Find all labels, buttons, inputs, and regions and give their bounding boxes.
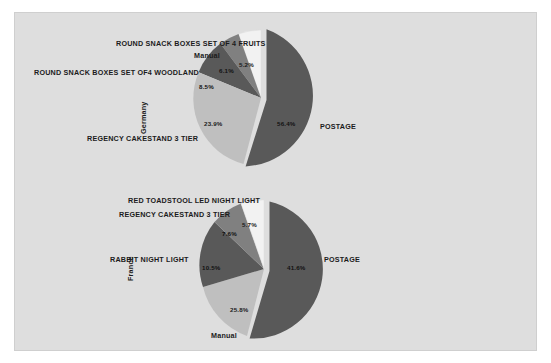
label-red-toadstool: RED TOADSTOOL LED NIGHT LIGHT [128,197,260,204]
pie-germany-svg [191,27,335,173]
pct-manual-bottom: 25.8% [230,307,249,313]
pct-regency-bottom: 7.6% [222,231,237,237]
label-postage-bottom: POSTAGE [324,256,360,263]
label-postage-top: POSTAGE [320,123,356,130]
pct-manual-top: 5.2% [239,62,254,68]
pie-chart-germany: ROUND SNACK BOXES SET OF 4 FRUITS Manual… [15,13,538,185]
pct-woodland-top: 8.5% [199,84,214,90]
label-manual-bottom: Manual [211,332,237,339]
label-regency-cakestand-top: REGENCY CAKESTAND 3 TIER [87,135,198,142]
pct-postage-bottom: 41.6% [287,265,306,271]
figure-canvas: ROUND SNACK BOXES SET OF 4 FRUITS Manual… [14,12,537,351]
pct-rabbit-bottom: 10.5% [202,265,221,271]
label-round-snack-woodland: ROUND SNACK BOXES SET OF4 WOODLAND [34,69,199,76]
label-france: France [127,256,134,281]
label-manual-top: Manual [194,52,220,59]
label-germany: Germany [140,101,147,134]
pie-chart-france: RED TOADSTOOL LED NIGHT LIGHT REGENCY CA… [15,181,538,351]
label-round-snack-fruits: ROUND SNACK BOXES SET OF 4 FRUITS [116,40,266,47]
pct-fruits-top: 6.1% [219,68,234,74]
pct-toadstool-bottom: 5.7% [242,222,257,228]
pct-postage-top: 56.4% [277,121,296,127]
label-rabbit-night-light: RABBIT NIGHT LIGHT [110,256,189,263]
label-regency-cakestand-bottom: REGENCY CAKESTAND 3 TIER [119,211,230,218]
pct-regency-top: 23.9% [204,121,223,127]
